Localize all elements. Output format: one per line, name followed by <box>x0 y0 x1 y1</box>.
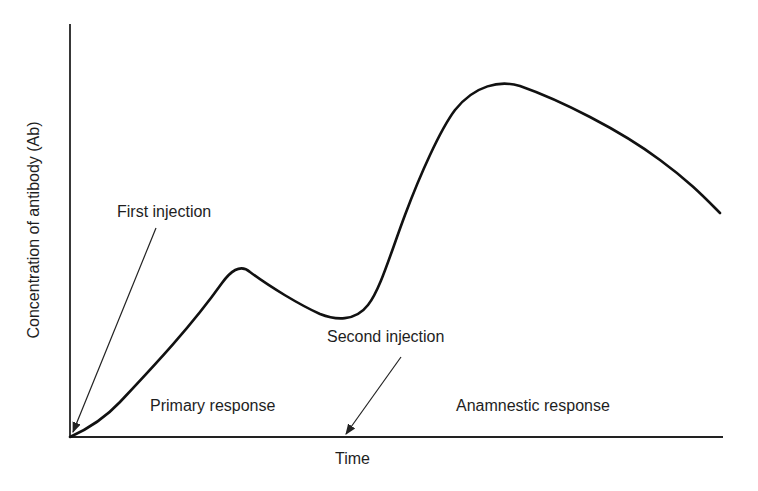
first-injection-arrow <box>73 228 156 432</box>
x-axis-label: Time <box>335 450 370 468</box>
second-injection-label: Second injection <box>327 328 444 346</box>
primary-response-label: Primary response <box>150 397 275 415</box>
first-injection-label: First injection <box>117 203 211 221</box>
antibody-curve <box>70 84 720 437</box>
antibody-response-chart <box>0 0 758 491</box>
second-injection-arrow <box>346 357 401 434</box>
anamnestic-response-label: Anamnestic response <box>456 397 610 415</box>
y-axis-label: Concentration of antibody (Ab) <box>25 121 43 338</box>
